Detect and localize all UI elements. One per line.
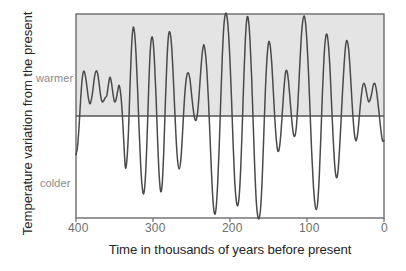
chart-plot-area bbox=[0, 0, 406, 271]
x-tick-label-200: 200 bbox=[222, 221, 243, 235]
x-tick-label-300: 300 bbox=[145, 221, 166, 235]
x-tick-label-0: 0 bbox=[381, 221, 388, 235]
x-tick-label-400: 400 bbox=[68, 221, 89, 235]
warmer-label: warmer bbox=[36, 72, 73, 84]
x-axis-title: Time in thousands of years before presen… bbox=[76, 242, 384, 257]
chart-figure: Temperature variation from the present w… bbox=[0, 0, 406, 271]
colder-label: colder bbox=[40, 177, 71, 189]
y-axis-title: Temperature variation from the present bbox=[20, 9, 35, 239]
x-tick-label-100: 100 bbox=[299, 221, 320, 235]
